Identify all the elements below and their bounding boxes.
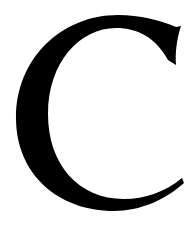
letter-c-glyph: [0, 0, 194, 234]
letter-c-shape: [16, 15, 184, 211]
letter-canvas: C: [0, 0, 194, 234]
